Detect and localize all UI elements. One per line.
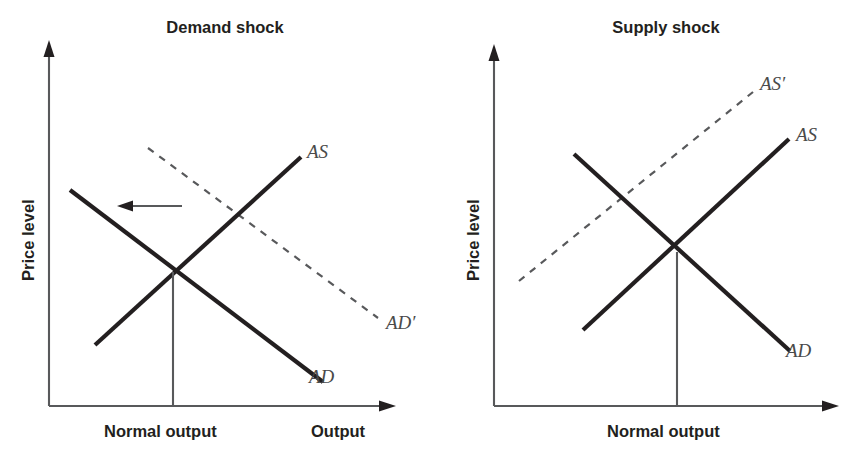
panel-supply-shock: Supply shock AS AD AS′ Price level Norma… xyxy=(464,18,839,440)
y-axis-label-demand-shock: Price level xyxy=(19,199,37,281)
panel-title-demand-shock: Demand shock xyxy=(166,18,284,36)
x-tick-label-supply-shock: Normal output xyxy=(607,422,720,440)
x-axis-demand-shock xyxy=(49,401,396,412)
curve-ad-prime-demand-shock xyxy=(148,148,378,318)
panel-demand-shock: Demand shock AS AD AD′ Price level xyxy=(19,18,416,440)
curve-label-as-supply-shock: AS xyxy=(794,124,818,145)
curve-label-ad-prime-demand-shock: AD′ xyxy=(384,312,416,333)
curve-ad-supply-shock xyxy=(574,154,790,351)
curve-ad-demand-shock xyxy=(70,190,323,382)
x-axis-arrowhead-icon xyxy=(379,401,396,412)
leftward-shift-arrow-icon xyxy=(117,201,182,212)
y-axis-supply-shock xyxy=(489,44,500,406)
curve-label-ad-supply-shock: AD xyxy=(784,340,812,361)
curve-label-as-demand-shock: AS xyxy=(305,141,329,162)
panel-title-supply-shock: Supply shock xyxy=(612,18,720,36)
y-axis-arrowhead-icon xyxy=(44,40,55,57)
y-axis-demand-shock xyxy=(44,40,55,406)
curve-as-prime-supply-shock xyxy=(519,92,753,281)
figure-canvas: Demand shock AS AD AD′ Price level xyxy=(0,0,855,460)
x-axis-label-demand-shock: Output xyxy=(311,422,366,440)
x-axis-supply-shock xyxy=(494,401,839,412)
y-axis-label-supply-shock: Price level xyxy=(464,199,482,281)
y-axis-arrowhead-icon xyxy=(489,44,500,61)
curve-label-ad-demand-shock: AD xyxy=(307,366,335,387)
shift-arrow-head xyxy=(117,201,133,212)
curve-as-supply-shock xyxy=(583,139,789,330)
curve-label-as-prime-supply-shock: AS′ xyxy=(758,73,786,94)
economics-ad-as-figure: Demand shock AS AD AD′ Price level xyxy=(0,0,855,460)
x-tick-label-demand-shock: Normal output xyxy=(104,422,217,440)
x-axis-arrowhead-icon xyxy=(822,401,839,412)
